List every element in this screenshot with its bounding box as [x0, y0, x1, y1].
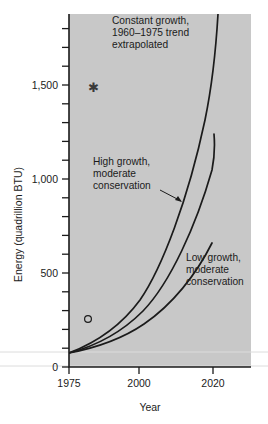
annotation-constant-growth-line-2: 1960–1975 trend [112, 27, 189, 38]
annotation-low-growth-line-2: moderate [186, 264, 229, 275]
y-tick-label-0: 0 [52, 361, 58, 373]
x-tick-label-2020: 2020 [201, 377, 225, 389]
annotation-high-growth-line-1: High growth, [93, 156, 150, 167]
annotation-constant-growth-line-3: extrapolated [112, 39, 168, 50]
y-tick-label-1000: 1,000 [32, 173, 58, 185]
chart-svg: 0 500 1,000 1,500 Energy (quadrillion BT… [0, 0, 268, 424]
y-axis-ticks [62, 29, 69, 367]
x-axis-title: Year [139, 401, 161, 413]
energy-projection-chart: 0 500 1,000 1,500 Energy (quadrillion BT… [0, 0, 268, 424]
annotation-constant-growth-line-1: Constant growth, [112, 15, 189, 26]
y-axis-title: Energy (quadrillion BTU) [12, 167, 24, 282]
x-axis-ticks [69, 367, 213, 374]
y-tick-label-1500: 1,500 [32, 79, 58, 91]
annotation-low-growth-line-1: Low growth, [186, 252, 241, 263]
annotation-low-growth-line-3: conservation [186, 276, 244, 287]
asterisk-marker: ✱ [88, 80, 99, 95]
y-tick-label-500: 500 [40, 267, 58, 279]
x-tick-label-1975: 1975 [57, 377, 81, 389]
x-tick-label-2000: 2000 [127, 377, 151, 389]
annotation-high-growth-line-2: moderate [93, 168, 136, 179]
annotation-high-growth-line-3: conservation [93, 180, 151, 191]
